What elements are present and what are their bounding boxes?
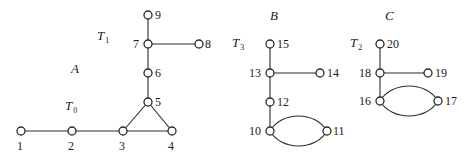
region-label-B: B <box>270 8 278 23</box>
edge-10-11-lower <box>270 131 327 146</box>
node-7 <box>144 40 152 48</box>
graph-svg: 1234567891011121314151617181920ABCT1T0T3… <box>0 0 474 156</box>
node-label-17: 17 <box>445 94 457 108</box>
edge-10-11-upper <box>270 116 327 131</box>
node-4 <box>168 127 176 135</box>
node-label-20: 20 <box>387 37 399 51</box>
node-label-15: 15 <box>277 37 289 51</box>
region-label-C: C <box>385 8 394 23</box>
node-label-12: 12 <box>277 95 289 109</box>
edges-layer <box>21 15 438 146</box>
node-17 <box>434 97 442 105</box>
node-label-5: 5 <box>155 95 161 109</box>
node-label-6: 6 <box>155 66 161 80</box>
graph-diagram: 1234567891011121314151617181920ABCT1T0T3… <box>0 0 474 156</box>
node-9 <box>144 11 152 19</box>
node-label-2: 2 <box>68 139 74 153</box>
node-3 <box>119 127 127 135</box>
node-14 <box>316 69 324 77</box>
node-12 <box>266 98 274 106</box>
node-10 <box>266 127 274 135</box>
node-2 <box>68 127 76 135</box>
nodes-layer <box>17 11 442 135</box>
node-18 <box>376 69 384 77</box>
node-label-10: 10 <box>249 124 261 138</box>
node-5 <box>144 98 152 106</box>
node-label-18: 18 <box>359 66 371 80</box>
node-label-11: 11 <box>333 124 345 138</box>
node-8 <box>195 40 203 48</box>
node-16 <box>376 97 384 105</box>
node-label-14: 14 <box>327 66 339 80</box>
node-20 <box>376 40 384 48</box>
node-13 <box>266 69 274 77</box>
node-label-13: 13 <box>249 66 261 80</box>
edge-16-17-upper <box>380 86 438 101</box>
node-19 <box>424 69 432 77</box>
tree-label-T1: T1 <box>97 28 109 45</box>
node-1 <box>17 127 25 135</box>
node-label-19: 19 <box>435 66 447 80</box>
tree-label-T3: T3 <box>232 35 244 52</box>
node-label-1: 1 <box>17 139 23 153</box>
node-label-9: 9 <box>155 8 161 22</box>
tree-label-T2: T2 <box>350 35 362 52</box>
tree-label-T0: T0 <box>65 98 77 115</box>
node-label-3: 3 <box>119 139 125 153</box>
node-label-7: 7 <box>133 37 139 51</box>
node-6 <box>144 69 152 77</box>
edge-16-17-lower <box>380 101 438 116</box>
node-label-8: 8 <box>205 37 211 51</box>
edge-3-5 <box>123 102 148 131</box>
node-label-16: 16 <box>359 94 371 108</box>
node-15 <box>266 40 274 48</box>
node-11 <box>323 127 331 135</box>
node-label-4: 4 <box>168 139 174 153</box>
region-label-A: A <box>70 61 79 76</box>
